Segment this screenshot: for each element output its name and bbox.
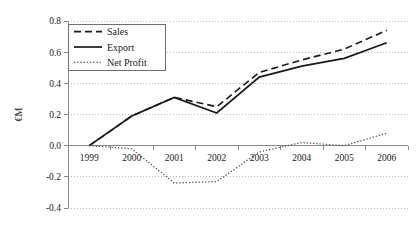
y-tick-label: 0.2 xyxy=(49,110,61,120)
y-axis-title: €M xyxy=(13,107,24,121)
line-chart: -0.4-0.20.00.20.40.60.8 1999200020012002… xyxy=(0,0,420,229)
legend-label: Export xyxy=(107,42,134,53)
x-axis-tick-labels: 19992000200120022003200420052006 xyxy=(80,153,397,163)
legend-label: Sales xyxy=(107,26,128,37)
y-tick-label: 0.4 xyxy=(49,79,61,89)
y-tick-label: 0.0 xyxy=(49,141,61,151)
x-tick-label: 2006 xyxy=(377,153,396,163)
x-tick-label: 2003 xyxy=(250,153,269,163)
y-tick-label: 0.6 xyxy=(49,48,61,58)
x-tick-label: 2002 xyxy=(207,153,226,163)
legend-label: Net Profit xyxy=(107,57,147,68)
x-tick-label: 2001 xyxy=(165,153,184,163)
y-tick-label: -0.2 xyxy=(46,172,61,182)
y-axis xyxy=(64,21,68,208)
chart-container: -0.4-0.20.00.20.40.60.8 1999200020012002… xyxy=(0,0,420,229)
y-tick-label: 0.8 xyxy=(49,16,61,26)
x-tick-label: 2004 xyxy=(292,153,311,163)
y-axis-tick-labels: -0.4-0.20.00.20.40.60.8 xyxy=(46,16,61,213)
y-tick-label: -0.4 xyxy=(46,203,61,213)
y-axis-title-label: €M xyxy=(13,107,24,121)
x-tick-label: 2005 xyxy=(335,153,354,163)
chart-legend: SalesExportNet Profit xyxy=(68,24,165,70)
x-tick-label: 1999 xyxy=(80,153,99,163)
